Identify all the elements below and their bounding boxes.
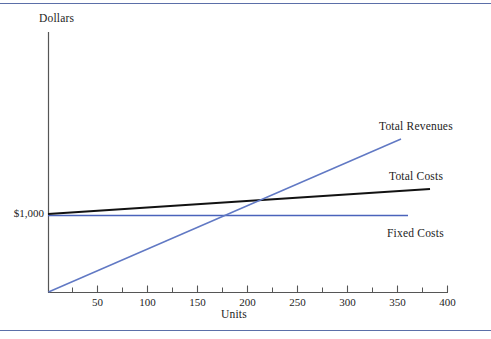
x-tick-label-300: 300 [328,296,368,308]
total-costs-line [48,189,430,214]
chart-page: Dollars Units $1,000 50 100 150 200 250 … [0,0,491,339]
x-tick-label-150: 150 [178,296,218,308]
x-tick-label-50: 50 [78,296,118,308]
y-axis-value-label-1000: $1,000 [8,207,44,219]
x-tick-label-400: 400 [428,296,468,308]
x-tick-label-100: 100 [128,296,168,308]
series-label-fixed-costs: Fixed Costs [387,227,444,239]
x-axis-title: Units [221,308,247,320]
x-tick-label-200: 200 [228,296,268,308]
series-label-total-costs: Total Costs [389,170,443,182]
x-tick-label-350: 350 [378,296,418,308]
y-axis-title: Dollars [39,12,74,24]
series-label-total-revenues: Total Revenues [379,120,453,132]
x-tick-label-250: 250 [278,296,318,308]
